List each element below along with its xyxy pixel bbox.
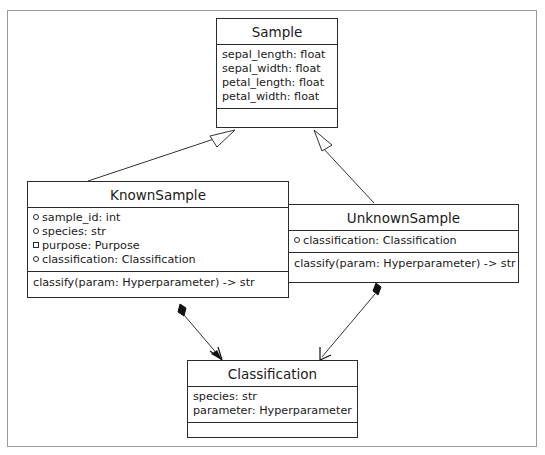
attribute-text: classification: Classification: [42, 253, 196, 266]
public-visibility-circle-icon: [33, 228, 39, 234]
class-operations: classify(param: Hyperparameter) -> str: [289, 253, 518, 275]
public-visibility-circle-icon: [294, 237, 300, 243]
attribute-text: species: str: [42, 225, 106, 238]
filled-diamond-icon: [373, 283, 381, 295]
public-visibility-circle-icon: [33, 256, 39, 262]
class-name: KnownSample: [28, 182, 288, 208]
class-attributes: sample_id: int species: str purpose: Pur…: [28, 208, 288, 272]
filled-diamond-icon: [178, 304, 186, 316]
class-operations: classify(param: Hyperparameter) -> str: [28, 272, 288, 294]
attribute: classification: Classification: [33, 253, 283, 267]
class-unknown-sample[interactable]: UnknownSample classification: Classifica…: [288, 204, 519, 283]
class-operations: [188, 423, 357, 430]
hollow-triangle-arrowhead-icon: [210, 130, 235, 147]
composition-unknown-to-classification: [320, 283, 381, 360]
class-attributes: sepal_length: float sepal_width: float p…: [217, 45, 337, 109]
class-operations: [217, 109, 337, 116]
class-name: UnknownSample: [289, 205, 518, 231]
attribute: classification: Classification: [294, 234, 513, 248]
attribute: species: str: [193, 390, 352, 404]
operation: classify(param: Hyperparameter) -> str: [33, 276, 283, 290]
attribute-text: purpose: Purpose: [42, 239, 140, 252]
generalization-known-to-sample: [88, 130, 235, 181]
composition-known-to-classification: [178, 304, 222, 360]
attribute-text: classification: Classification: [303, 234, 457, 247]
class-attributes: classification: Classification: [289, 231, 518, 253]
attribute: sample_id: int: [33, 211, 283, 225]
class-classification[interactable]: Classification species: str parameter: H…: [187, 360, 358, 438]
attribute: sepal_width: float: [222, 62, 332, 76]
attribute: purpose: Purpose: [33, 239, 283, 253]
attribute: petal_length: float: [222, 76, 332, 90]
hollow-triangle-arrowhead-icon: [314, 130, 332, 151]
class-sample[interactable]: Sample sepal_length: float sepal_width: …: [216, 18, 338, 128]
attribute: species: str: [33, 225, 283, 239]
attribute: sepal_length: float: [222, 48, 332, 62]
attribute: petal_width: float: [222, 90, 332, 104]
class-name: Classification: [188, 361, 357, 387]
attribute-text: sample_id: int: [42, 211, 120, 224]
generalization-unknown-to-sample: [314, 130, 374, 203]
class-name: Sample: [217, 19, 337, 45]
class-attributes: species: str parameter: Hyperparameter: [188, 387, 357, 423]
class-known-sample[interactable]: KnownSample sample_id: int species: str …: [27, 181, 289, 298]
public-visibility-circle-icon: [33, 214, 39, 220]
operation: classify(param: Hyperparameter) -> str: [294, 257, 513, 271]
private-visibility-square-icon: [33, 242, 39, 248]
attribute: parameter: Hyperparameter: [193, 404, 352, 418]
